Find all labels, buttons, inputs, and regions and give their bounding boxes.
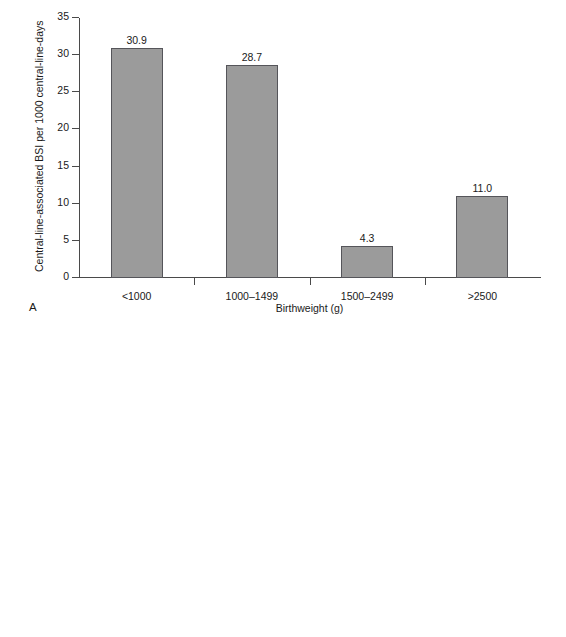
y-axis-tick: 0 xyxy=(72,277,79,278)
y-axis-tick: 30 xyxy=(72,54,79,55)
y-axis-tick: 10 xyxy=(72,203,79,204)
bar-value-label: 30.9 xyxy=(126,34,146,46)
y-axis-tick-label: 20 xyxy=(57,121,69,134)
y-axis-tick: 5 xyxy=(72,240,79,241)
chart-panel-a: 0510152025303530.9<100028.71000–14994.31… xyxy=(0,0,566,320)
y-axis-tick-label: 25 xyxy=(57,84,69,97)
x-axis-tick xyxy=(310,278,311,285)
y-axis-tick: 25 xyxy=(72,91,79,92)
bar: 28.7 xyxy=(226,65,278,278)
y-axis-tick-label: 35 xyxy=(57,10,69,23)
y-axis-tick: 35 xyxy=(72,17,79,18)
y-axis-tick-label: 10 xyxy=(57,196,69,209)
y-axis-line-a xyxy=(79,18,80,278)
y-axis-tick-label: 30 xyxy=(57,47,69,60)
bar-value-label: 28.7 xyxy=(242,51,262,63)
y-axis-tick-label: 5 xyxy=(63,233,69,246)
bar: 11.0 xyxy=(456,196,508,278)
y-axis-tick-label: 0 xyxy=(63,270,69,283)
panel-letter-a: A xyxy=(29,300,37,314)
bar: 4.3 xyxy=(341,246,393,278)
x-axis-tick xyxy=(425,278,426,285)
chart-panel-b: 051015202519.7<100014.41000–14995.81500–… xyxy=(0,320,566,637)
x-axis-title-a: Birthweight (g) xyxy=(79,302,540,315)
y-axis-tick: 20 xyxy=(72,128,79,129)
x-axis-tick xyxy=(194,278,195,285)
bar: 30.9 xyxy=(111,48,163,278)
plot-area-a: 0510152025303530.9<100028.71000–14994.31… xyxy=(79,18,540,278)
bar-value-label: 11.0 xyxy=(473,182,493,194)
y-axis-tick-label: 15 xyxy=(57,159,69,172)
y-axis-title-a: Central-line-associated BSI per 1000 cen… xyxy=(33,20,45,272)
bar-value-label: 4.3 xyxy=(360,232,375,244)
y-axis-tick: 15 xyxy=(72,166,79,167)
